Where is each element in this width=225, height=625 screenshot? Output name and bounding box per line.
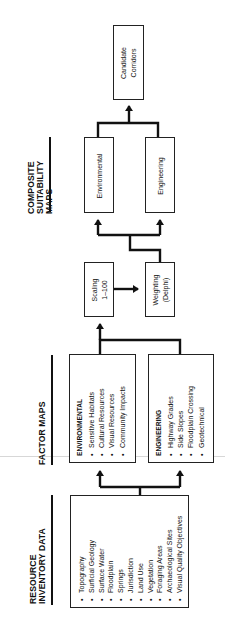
candidate-corridors-label: Candidate Corridors <box>119 41 138 85</box>
header-underline-resource <box>51 495 54 605</box>
weighting-box: Weighting (Delphi) <box>145 262 175 317</box>
list-item: Jurisdiction <box>126 516 136 601</box>
label-line: 1–100 <box>100 269 110 311</box>
factor-environmental-list: ENVIRONMENTAL Sensitive Habitats Cultura… <box>74 386 128 456</box>
list-item: Surface Water <box>97 516 107 601</box>
list-item: Visual Resources <box>107 386 117 456</box>
weighting-label: Weighting (Delphi) <box>151 269 170 311</box>
scaling-label: Scaling 1–100 <box>90 269 109 311</box>
list-item: Floodplain <box>106 516 116 601</box>
factor-engineering-box: ENGINEERING Highway Grades Side Slopes F… <box>148 354 214 463</box>
label-line: Candidate <box>119 41 129 85</box>
list-item: Community Impacts <box>118 386 128 456</box>
factor-environmental-title: ENVIRONMENTAL <box>74 386 86 456</box>
header-underline-composite <box>49 137 52 212</box>
composite-to-candidate-connector <box>98 123 158 137</box>
resource-inventory-box: Topography Surficial Geology Surface Wat… <box>70 495 189 608</box>
label-line: (Delphi) <box>161 269 171 311</box>
header-line: INVENTORY DATA <box>38 528 47 604</box>
list-item: Sensitive Habitats <box>87 386 97 456</box>
factor-engineering-list: ENGINEERING Highway Grades Side Slopes F… <box>153 386 207 456</box>
weighting-to-composite-connector <box>98 235 160 262</box>
list-item: Floodplain Crossing <box>186 386 196 456</box>
list-item: Side Slopes <box>176 386 186 456</box>
scaling-box: Scaling 1–100 <box>84 262 114 317</box>
candidate-corridors-box: Candidate Corridors <box>113 25 144 100</box>
list-item: Visual Quality Objectives <box>175 516 185 601</box>
composite-engineering-box: Engineering <box>145 137 175 213</box>
list-item: Springs <box>116 516 126 601</box>
header-line: FACTOR MAPS <box>38 402 47 466</box>
factor-engineering-title: ENGINEERING <box>153 386 165 456</box>
list-item: Topography <box>77 516 87 601</box>
header-underline-factor <box>51 355 54 465</box>
list-item: Highway Grades <box>166 386 176 456</box>
list-item: Geotechnical <box>197 386 207 456</box>
list-item: Land Use <box>136 516 146 601</box>
list-item: Foraging Areas <box>155 516 165 601</box>
label-line: Corridors <box>129 41 139 85</box>
label-line: Scaling <box>90 269 100 311</box>
composite-environmental-label: Environmental <box>95 146 105 206</box>
list-item: Vegetation <box>146 516 156 601</box>
header-factor-maps: FACTOR MAPS <box>38 402 47 466</box>
list-item: Cultural Resources <box>97 386 107 456</box>
label-line: Weighting <box>151 269 161 311</box>
factor-environmental-box: ENVIRONMENTAL Sensitive Habitats Cultura… <box>69 354 136 463</box>
resource-to-factor-connector <box>100 487 180 495</box>
composite-engineering-label: Engineering <box>156 146 166 206</box>
header-resource-inventory-data: RESOURCE INVENTORY DATA <box>29 528 47 604</box>
resource-inventory-list: Topography Surficial Geology Surface Wat… <box>77 516 185 601</box>
composite-environmental-box: Environmental <box>84 137 114 213</box>
factor-to-scaling-connector <box>100 340 180 354</box>
list-item: Archaeological Sites <box>165 516 175 601</box>
list-item: Surficial Geology <box>87 516 97 601</box>
